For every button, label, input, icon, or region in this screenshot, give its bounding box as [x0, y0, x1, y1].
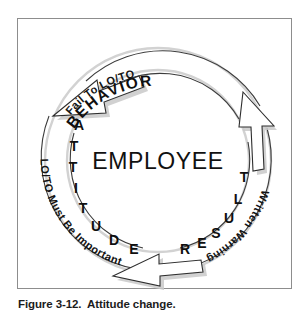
result-letter-t: T — [240, 169, 249, 185]
attitude-letter-d: D — [109, 232, 119, 248]
attitude-letter-a: A — [74, 117, 84, 133]
result-letter-r: R — [180, 241, 190, 257]
attitude-letter-u: U — [91, 218, 101, 234]
attitude-letter-t1: T — [70, 138, 79, 154]
result-letter-e: E — [197, 235, 206, 251]
figure-caption: Figure 3-12. Attitude change. — [18, 298, 290, 310]
attitude-letter-i: I — [74, 180, 78, 196]
result-letter-u: U — [224, 210, 234, 226]
arrow-bottom — [113, 254, 207, 290]
attitude-letter-t2: T — [69, 159, 78, 175]
result-letter-l: L — [234, 191, 243, 207]
attitude-letter-e: E — [129, 241, 138, 257]
figure-container: Fail To LO/TO BEHAVIOR Written Warning L… — [0, 0, 308, 318]
attitude-cycle-diagram: Fail To LO/TO BEHAVIOR Written Warning L… — [17, 18, 293, 290]
center-label-employee: EMPLOYEE — [92, 148, 223, 174]
result-letter-s: S — [211, 225, 220, 241]
attitude-letter-t3: T — [79, 200, 88, 216]
